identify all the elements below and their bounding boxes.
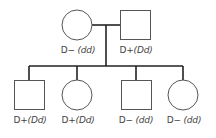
phenotype: D+ [62, 115, 76, 125]
parent-male-symbol [121, 11, 151, 40]
parent-male-label: D+(Dd) [120, 45, 153, 55]
phenotype: D− [119, 115, 133, 125]
child-1-male-symbol [15, 81, 45, 110]
genotype: (dd) [78, 45, 96, 55]
child-4-female-symbol [168, 80, 198, 110]
child-2-label: D+(Dd) [62, 115, 95, 125]
parent-female-symbol [62, 10, 92, 40]
child-1-label: D+(Dd) [14, 115, 47, 125]
genotype: (dd) [184, 115, 202, 125]
child-3-male-symbol [122, 81, 152, 110]
phenotype: D− [167, 115, 181, 125]
phenotype: D+ [14, 115, 28, 125]
genotype: (Dd) [28, 115, 47, 125]
genotype: (Dd) [134, 45, 153, 55]
phenotype: D+ [120, 45, 134, 55]
phenotype: D− [61, 45, 75, 55]
child-4-label: D− (dd) [167, 115, 201, 125]
child-2-female-symbol [62, 80, 92, 110]
genotype: (Dd) [76, 115, 95, 125]
genotype: (dd) [136, 115, 154, 125]
child-3-label: D− (dd) [119, 115, 153, 125]
parent-female-label: D− (dd) [61, 45, 95, 55]
